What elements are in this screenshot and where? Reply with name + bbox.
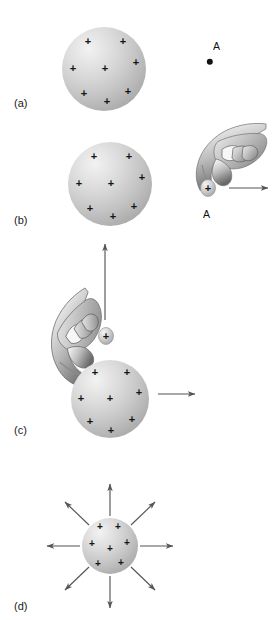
positive-charge-icon: + [131, 201, 137, 212]
positive-charge-icon: + [87, 416, 93, 427]
panel-label-d: (d) [14, 600, 27, 612]
positive-charge-icon: + [91, 151, 97, 162]
panel-label-a: (a) [14, 97, 27, 109]
positive-charge-icon: + [118, 558, 124, 568]
positive-charge-icon: + [107, 544, 113, 554]
point-a-dot [207, 59, 213, 65]
field-arrow-nw [65, 502, 89, 525]
panel-label-c: (c) [14, 424, 27, 436]
positive-charge-icon: + [81, 88, 87, 99]
positive-charge-icon: + [107, 393, 113, 404]
test-charge-plus-icon: + [205, 183, 211, 194]
positive-charge-icon: + [120, 36, 126, 47]
positive-charge-icon: + [95, 559, 101, 569]
positive-charge-icon: + [115, 522, 121, 532]
positive-charge-icon: + [87, 203, 93, 214]
positive-charge-icon: + [108, 425, 114, 436]
positive-charge-icon: + [102, 63, 108, 74]
positive-charge-icon: + [139, 172, 145, 183]
positive-charge-icon: + [129, 414, 135, 425]
positive-charge-icon: + [78, 393, 84, 404]
test-charge-plus-icon: + [103, 331, 109, 342]
positive-charge-icon: + [85, 36, 91, 47]
positive-charge-icon: + [110, 211, 116, 222]
point-a-label: A [213, 40, 220, 52]
positive-charge-icon: + [108, 178, 114, 189]
positive-charge-icon: + [125, 86, 131, 97]
physics-figure: ++++++++(a)A++++++++(b)A+++++++++(c)++++… [0, 0, 273, 620]
field-arrow-ne [131, 502, 155, 525]
positive-charge-icon: + [92, 367, 98, 378]
positive-charge-icon: + [70, 63, 76, 74]
positive-charge-icon: + [124, 538, 130, 548]
point-a-label: A [203, 208, 210, 220]
positive-charge-icon: + [89, 539, 95, 549]
positive-charge-icon: + [76, 178, 82, 189]
field-arrow-sw [65, 567, 89, 590]
hand-holding-test-charge [196, 123, 266, 190]
panel-label-b: (b) [14, 214, 27, 226]
positive-charge-icon: + [124, 367, 130, 378]
positive-charge-icon: + [136, 387, 142, 398]
field-arrow-se [131, 567, 155, 590]
positive-charge-icon: + [97, 522, 103, 532]
positive-charge-icon: + [126, 151, 132, 162]
positive-charge-icon: + [104, 96, 110, 107]
positive-charge-icon: + [133, 57, 139, 68]
